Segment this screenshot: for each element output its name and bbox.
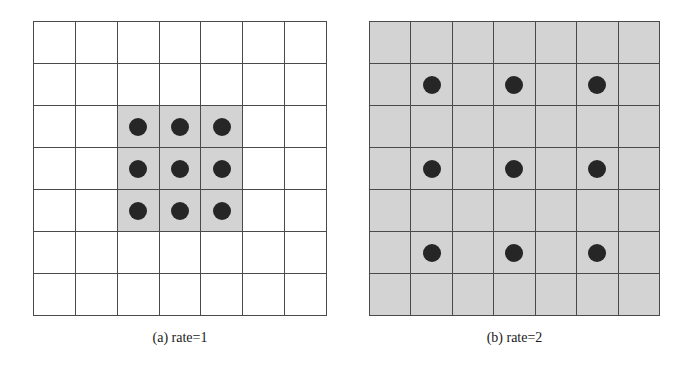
caption-rate-1: (a) rate=1 [33, 330, 327, 346]
grid-cell [370, 190, 411, 232]
caption-rate-2: (b) rate=2 [369, 330, 660, 346]
kernel-sample-dot-icon [171, 202, 189, 220]
grid-cell [453, 190, 494, 232]
grid-cell [76, 22, 118, 64]
grid-cell [201, 106, 243, 148]
kernel-grid-rate-1 [33, 21, 327, 316]
grid-cell [619, 22, 660, 64]
grid-cell [411, 22, 452, 64]
grid-cell [243, 232, 285, 274]
grid-cell [619, 274, 660, 316]
grid-cell [577, 190, 618, 232]
grid-cell [201, 64, 243, 106]
grid-cell [76, 274, 118, 316]
grid-cell [160, 64, 202, 106]
grid-cell [411, 106, 452, 148]
grid-cell [285, 106, 327, 148]
grid-cell [370, 106, 411, 148]
grid-cell [453, 22, 494, 64]
kernel-sample-dot-icon [505, 160, 523, 178]
kernel-sample-dot-icon [129, 118, 147, 136]
grid-cell [34, 106, 76, 148]
grid-cell [494, 148, 535, 190]
grid-cell [536, 64, 577, 106]
grid-cell [76, 148, 118, 190]
grid-cell [160, 22, 202, 64]
grid-cell [243, 190, 285, 232]
grid-cell [411, 274, 452, 316]
grid-cell [577, 106, 618, 148]
grid-cell [34, 22, 76, 64]
kernel-sample-dot-icon [588, 160, 606, 178]
grid-cell [411, 148, 452, 190]
grid-cell [285, 232, 327, 274]
grid-cell [160, 148, 202, 190]
kernel-sample-dot-icon [129, 202, 147, 220]
grid-cell [201, 190, 243, 232]
grid-cell [494, 106, 535, 148]
grid-cell [370, 274, 411, 316]
grid-cell [34, 190, 76, 232]
grid-cell [619, 106, 660, 148]
kernel-sample-dot-icon [171, 160, 189, 178]
grid-cell [494, 64, 535, 106]
grid-cell [619, 232, 660, 274]
grid-cell [577, 148, 618, 190]
grid-cell [160, 106, 202, 148]
grid-cell [243, 64, 285, 106]
grid-cell [536, 274, 577, 316]
kernel-sample-dot-icon [213, 118, 231, 136]
grid-cell [243, 106, 285, 148]
kernel-sample-dot-icon [129, 160, 147, 178]
grid-cell [577, 22, 618, 64]
kernel-grid-rate-2 [369, 21, 660, 316]
grid-cell [577, 64, 618, 106]
grid-cell [160, 232, 202, 274]
kernel-sample-dot-icon [213, 160, 231, 178]
grid-cell [243, 148, 285, 190]
grid-cell [118, 106, 160, 148]
grid-cell [201, 232, 243, 274]
grid-cell [411, 232, 452, 274]
grid-cell [453, 274, 494, 316]
kernel-sample-dot-icon [423, 76, 441, 94]
grid-cell [243, 22, 285, 64]
grid-cell [118, 232, 160, 274]
grid-cell [243, 274, 285, 316]
grid-cell [201, 148, 243, 190]
grid-cell [494, 190, 535, 232]
kernel-sample-dot-icon [423, 244, 441, 262]
grid-cell [160, 190, 202, 232]
grid-cell [118, 148, 160, 190]
grid-cell [619, 148, 660, 190]
grid-cell [76, 64, 118, 106]
kernel-sample-dot-icon [171, 118, 189, 136]
kernel-sample-dot-icon [423, 160, 441, 178]
grid-cell [201, 274, 243, 316]
kernel-sample-dot-icon [213, 202, 231, 220]
grid-cell [370, 64, 411, 106]
grid-cell [453, 148, 494, 190]
grid-cell [453, 64, 494, 106]
grid-cell [76, 190, 118, 232]
grid-cell [536, 148, 577, 190]
grid-cell [285, 64, 327, 106]
kernel-sample-dot-icon [505, 76, 523, 94]
grid-cell [577, 274, 618, 316]
grid-cell [285, 148, 327, 190]
grid-cell [619, 64, 660, 106]
grid-cell [34, 148, 76, 190]
grid-cell [118, 64, 160, 106]
grid-cell [76, 106, 118, 148]
grid-cell [285, 190, 327, 232]
grid-cell [536, 22, 577, 64]
grid-cell [76, 232, 118, 274]
grid-cell [201, 22, 243, 64]
grid-cell [453, 232, 494, 274]
grid-cell [285, 22, 327, 64]
grid-cell [370, 148, 411, 190]
grid-cell [536, 106, 577, 148]
grid-cell [536, 190, 577, 232]
grid-cell [453, 106, 494, 148]
grid-cell [494, 22, 535, 64]
